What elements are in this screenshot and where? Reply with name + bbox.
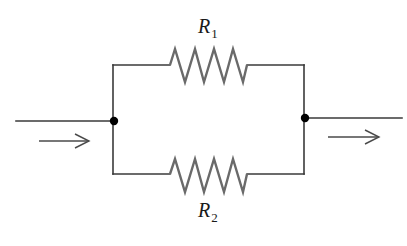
input-current-arrow-icon bbox=[39, 134, 89, 148]
resistor-r2-symbol bbox=[170, 159, 247, 192]
output-current-arrow-icon bbox=[328, 130, 379, 144]
resistor-r1-symbol-text: R bbox=[198, 15, 210, 37]
resistor-r2-label: R2 bbox=[198, 200, 218, 224]
right-junction-node bbox=[301, 114, 309, 122]
resistor-r1-symbol bbox=[170, 49, 247, 82]
left-junction-node bbox=[110, 117, 118, 125]
resistor-r1-subscript: 1 bbox=[211, 26, 218, 41]
resistor-r2-symbol-text: R bbox=[198, 199, 210, 221]
resistor-r1-label: R1 bbox=[198, 16, 218, 40]
resistor-r2-subscript: 2 bbox=[211, 210, 218, 225]
